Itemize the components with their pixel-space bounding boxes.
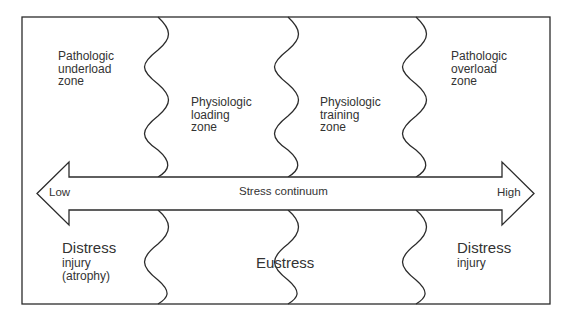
outcome-right-detail: injury (457, 257, 486, 270)
arrow-low-label: Low (49, 186, 70, 198)
outcome-right-title: Distress (457, 240, 511, 256)
zone-label-physiologic-training: Physiologic training zone (320, 96, 381, 134)
arrow-high-label: High (497, 186, 521, 198)
zone-boundary-1-bottom (145, 210, 169, 304)
zone-boundary-2-top (275, 17, 299, 177)
outcome-left-title: Distress (62, 240, 116, 256)
zone-label-pathologic-underload: Pathologic underload zone (58, 50, 114, 88)
zone-boundary-3-top (403, 17, 427, 177)
zone-boundary-1-top (145, 17, 169, 177)
outcome-left-detail: injury (atrophy) (62, 257, 110, 282)
zone-boundary-3-bottom (403, 210, 427, 304)
zone-label-physiologic-loading: Physiologic loading zone (191, 96, 252, 134)
outcome-middle-title: Eustress (256, 255, 314, 271)
zone-label-pathologic-overload: Pathologic overload zone (451, 50, 507, 88)
arrow-title: Stress continuum (239, 185, 328, 197)
